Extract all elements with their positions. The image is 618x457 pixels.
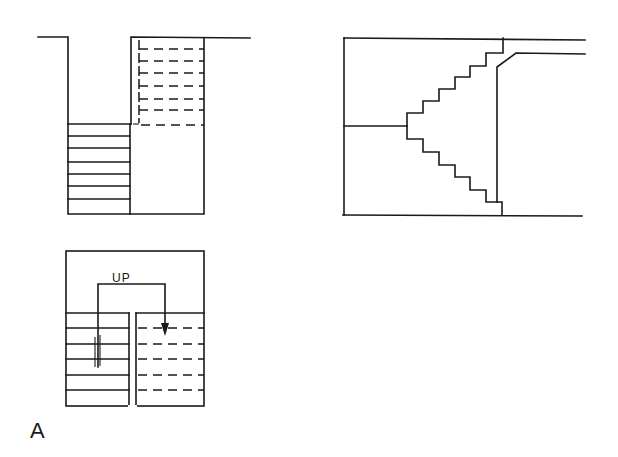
elevation-right-wall: [497, 53, 585, 202]
elevation-top-line: [344, 38, 585, 40]
section-upper-ground: [131, 37, 250, 124]
upper-steps: [407, 38, 503, 126]
solid-treads: [68, 124, 131, 199]
up-direction-label: UP: [112, 271, 131, 285]
stair-drawings: [0, 0, 618, 457]
plan-dashed-treads: [138, 328, 204, 390]
arrow-head-icon: [161, 323, 169, 336]
lower-steps: [407, 126, 502, 215]
plan-view: [66, 251, 204, 406]
side-elevation: [343, 38, 585, 216]
up-arrow-path: [98, 284, 165, 367]
figure-label: A: [30, 418, 45, 444]
section-view: [38, 37, 250, 214]
elevation-bottom-line: [343, 215, 582, 216]
dashed-treads: [139, 49, 204, 125]
